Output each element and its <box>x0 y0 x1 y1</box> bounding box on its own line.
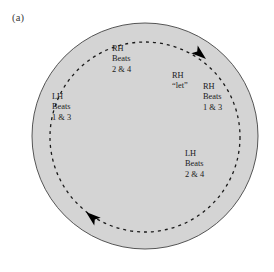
label-line: Beats <box>203 92 222 102</box>
figure-container: (a) RH Beats 2 & 4 LH Beats 1 & 3 RH “le… <box>0 0 274 272</box>
label-line: RH <box>172 71 188 81</box>
label-line: 1 & 3 <box>52 113 71 123</box>
label-line: 2 & 4 <box>112 65 131 75</box>
cycle-diagram <box>0 0 274 272</box>
label-rh-beats-1-3: RH Beats 1 & 3 <box>203 82 222 113</box>
label-line: 1 & 3 <box>203 103 222 113</box>
label-rh-beats-2-4: RH Beats 2 & 4 <box>112 44 131 75</box>
label-lh-beats-1-3: LH Beats 1 & 3 <box>52 92 71 123</box>
label-rh-let: RH “let” <box>172 71 188 92</box>
label-line: RH <box>112 44 131 54</box>
label-line: RH <box>203 82 222 92</box>
label-line: 2 & 4 <box>185 170 204 180</box>
shaded-disc <box>32 23 258 249</box>
label-line: LH <box>185 149 204 159</box>
label-line: LH <box>52 92 71 102</box>
label-line: Beats <box>52 102 71 112</box>
label-lh-beats-2-4: LH Beats 2 & 4 <box>185 149 204 180</box>
label-line: Beats <box>112 54 131 64</box>
label-line: “let” <box>172 81 188 91</box>
label-line: Beats <box>185 159 204 169</box>
